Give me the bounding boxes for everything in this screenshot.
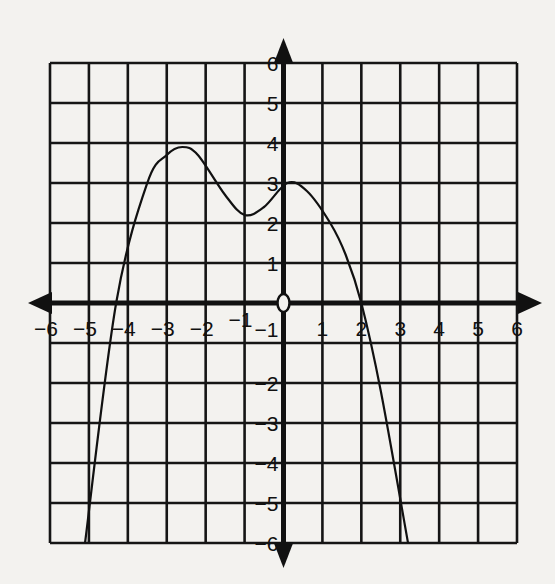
function-curve xyxy=(85,147,408,543)
y-tick-label: 4 xyxy=(267,132,279,155)
x-tick-label: 1 xyxy=(317,317,329,340)
x-tick-label: −1 xyxy=(229,308,253,331)
x-tick-label: −5 xyxy=(73,317,97,340)
x-axis-right-arrow-icon xyxy=(518,292,542,314)
origin-marker xyxy=(278,294,290,312)
x-axis-left-arrow-icon xyxy=(28,292,52,314)
y-tick-label: 3 xyxy=(267,172,279,195)
y-tick-label: −6 xyxy=(255,532,279,555)
y-tick-label: 2 xyxy=(267,212,279,235)
y-tick-label: 1 xyxy=(267,252,279,275)
x-tick-label: 6 xyxy=(511,317,523,340)
y-tick-label: 5 xyxy=(267,92,279,115)
x-tick-label: 2 xyxy=(355,317,367,340)
y-tick-label: −3 xyxy=(255,412,279,435)
x-tick-label: 4 xyxy=(433,317,445,340)
y-tick-label: −4 xyxy=(255,452,279,475)
x-tick-label: −3 xyxy=(151,317,175,340)
x-tick-label: −2 xyxy=(190,317,214,340)
y-tick-label: −5 xyxy=(255,492,279,515)
y-tick-label: 6 xyxy=(267,52,279,75)
x-tick-label: −6 xyxy=(34,317,58,340)
coordinate-plane: −6−5−4−3−2−1123456654321−1−2−3−4−5−6 xyxy=(0,0,555,584)
x-tick-label: 3 xyxy=(394,317,406,340)
y-tick-label: −2 xyxy=(255,372,279,395)
x-tick-label: −4 xyxy=(112,317,136,340)
x-tick-label: 5 xyxy=(472,317,484,340)
y-tick-label: −1 xyxy=(255,318,279,341)
